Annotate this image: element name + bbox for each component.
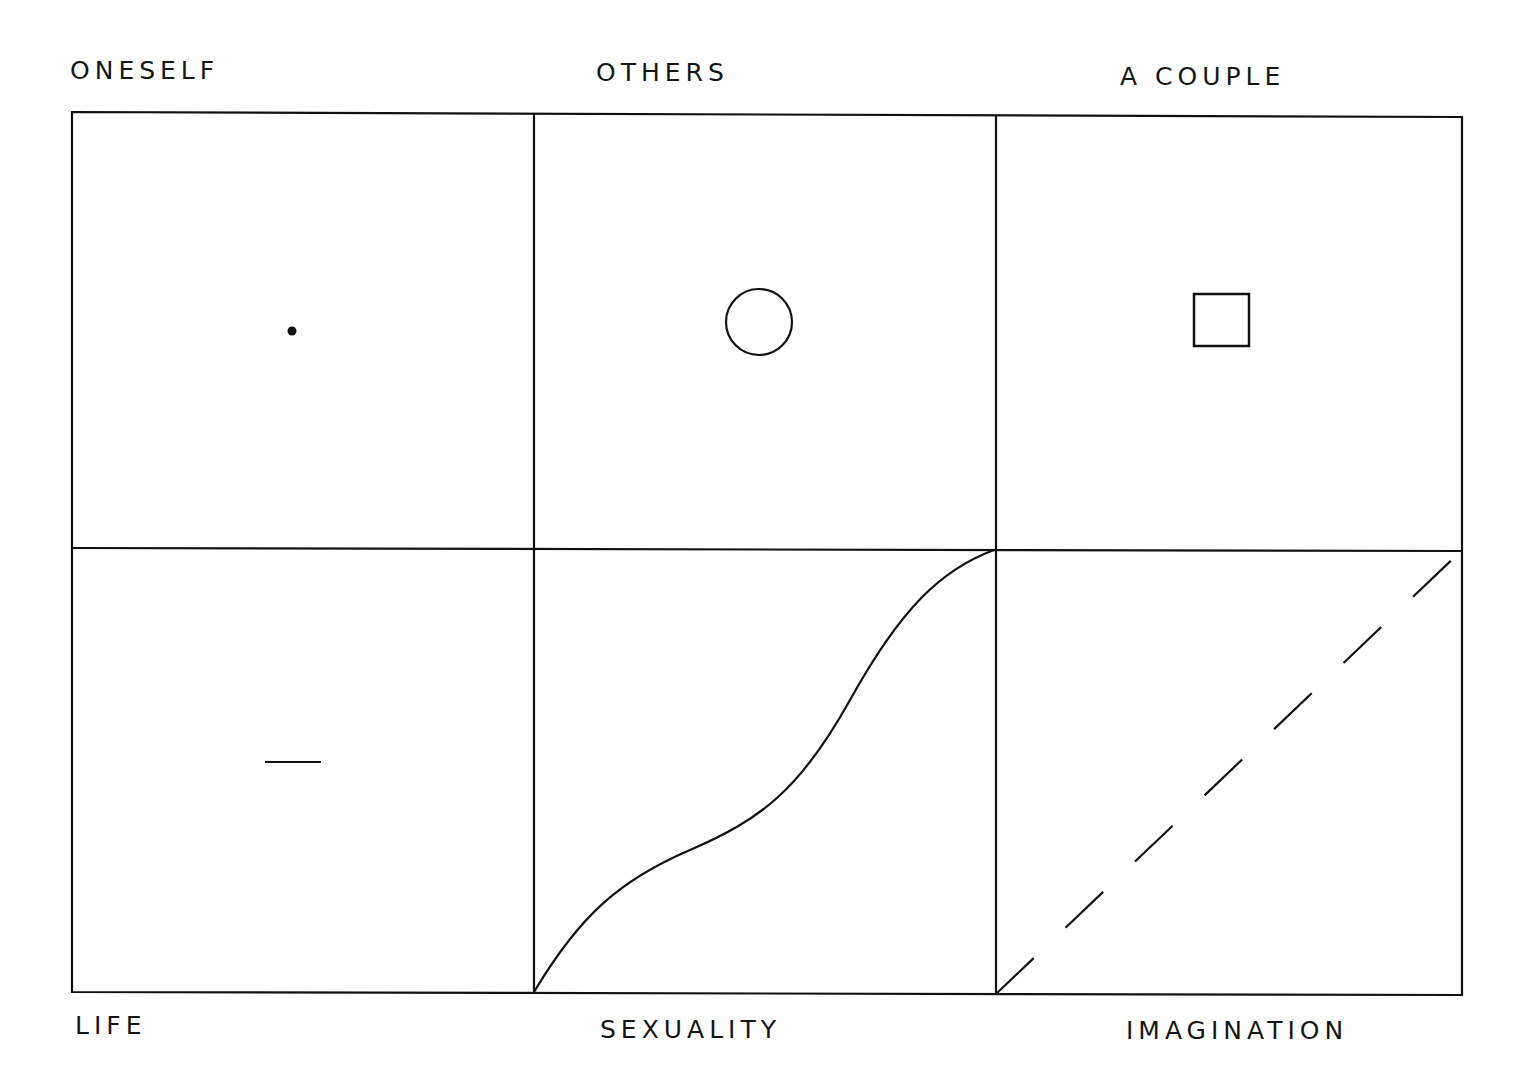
label-sexuality: SEXUALITY	[600, 1015, 781, 1044]
grid-frame	[72, 112, 1462, 995]
square-symbol	[1194, 294, 1249, 346]
dot-symbol	[288, 327, 297, 336]
circle-symbol	[726, 289, 792, 355]
label-life: LIFE	[75, 1011, 146, 1040]
grid-divider-h	[72, 548, 1462, 551]
dashed-diagonal-symbol	[996, 552, 1460, 994]
label-imagination: IMAGINATION	[1126, 1016, 1348, 1045]
s-curve-symbol	[534, 550, 994, 992]
concept-grid	[0, 0, 1531, 1084]
